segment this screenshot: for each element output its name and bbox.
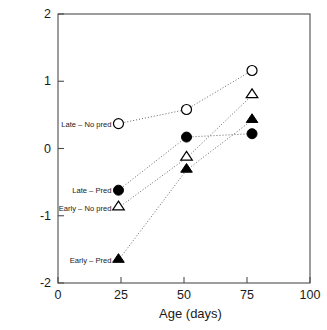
y-tick-label: 0	[44, 142, 51, 156]
x-tick-label: 25	[114, 288, 128, 302]
data-point-open-circle	[113, 119, 123, 129]
y-tick-label: 1	[44, 74, 51, 88]
data-point-filled-circle	[113, 185, 123, 195]
series-label: Early – Pred	[70, 256, 112, 265]
series-label: Early – No pred	[59, 203, 112, 212]
series-label: Late – Pred	[72, 186, 111, 195]
x-tick-label: 100	[300, 288, 321, 302]
data-point-open-circle	[182, 104, 192, 114]
y-axis-label-wrap: PC1 (foraging behaviour)	[14, 0, 15, 330]
data-point-filled-circle	[247, 129, 257, 139]
x-tick-label: 75	[240, 288, 254, 302]
y-tick-label: -2	[40, 276, 51, 290]
y-tick-label: 2	[44, 7, 51, 21]
x-tick-label: 50	[177, 288, 191, 302]
series-label: Late – No pred	[61, 119, 111, 128]
x-tick-label: 0	[55, 288, 62, 302]
y-tick-label: -1	[40, 209, 51, 223]
axes-frame	[58, 14, 310, 283]
x-axis-label-text: Age (days)	[159, 306, 222, 321]
data-point-open-circle	[247, 65, 257, 75]
x-axis-label: Age (days)	[0, 306, 327, 321]
data-point-filled-circle	[182, 132, 192, 142]
